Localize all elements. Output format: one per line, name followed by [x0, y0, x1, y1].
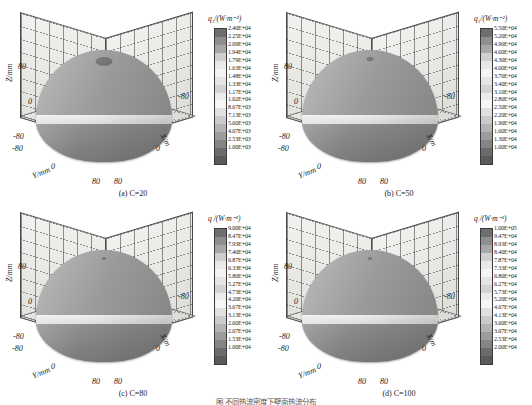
colorbar-swatch [215, 308, 226, 316]
x-tick-80: 80 [380, 377, 388, 386]
colorbar-tick-label: 7.13E+03 [228, 112, 268, 120]
y-tick-0: 0 [317, 162, 321, 171]
colorbar-swatch [481, 61, 492, 69]
x-tick-0: 0 [156, 144, 160, 153]
panel-a: Z/mm 80 0 -80 -80 0 80 Y/mm -80 0 80 X/m… [0, 0, 266, 202]
z-tick-neg80: -80 [279, 132, 290, 141]
colorbar-swatch [481, 77, 492, 85]
colorbar-swatch [481, 324, 492, 332]
colorbar-swatch [215, 116, 226, 124]
colorbar-swatch [481, 269, 492, 277]
colorbar-tick-label: 2.00E+04 [494, 344, 532, 352]
colorbar-swatch [215, 124, 226, 132]
dome-skirt [302, 320, 438, 362]
y-tick-neg80: -80 [12, 344, 23, 353]
colorbar-swatch [215, 140, 226, 148]
colorbar-swatch [481, 69, 492, 77]
y-tick-neg80: -80 [12, 144, 23, 153]
colorbar-swatch [481, 285, 492, 293]
colorbar-swatch [481, 148, 492, 156]
dome-skirt [36, 320, 172, 362]
axes-3d-c [6, 204, 202, 380]
colorbar-swatch [481, 316, 492, 324]
colorbar-swatch [215, 108, 226, 116]
colorbar-tick-label: 1.90E+04 [494, 120, 532, 128]
colorbar-swatch [215, 69, 226, 77]
colorbar-swatch [481, 37, 492, 45]
colorbar-tick-labels: 2.40E+042.25E+042.09E+041.94E+041.79E+04… [228, 25, 268, 165]
colorbar-swatch [481, 293, 492, 301]
colorbar-swatch [481, 348, 492, 356]
colorbar-tick-label: 9.00E+04 [228, 225, 268, 233]
colorbar-swatch [215, 245, 226, 253]
colorbar-tick-label: 4.13E+04 [494, 312, 532, 320]
x-tick-80: 80 [114, 377, 122, 386]
colorbar-tick-label: 7.40E+04 [228, 249, 268, 257]
colorbar-swatch [215, 53, 226, 61]
z-axis-label: Z/mm [5, 64, 14, 82]
x-tick-0: 0 [422, 344, 426, 353]
y-tick-0: 0 [317, 362, 321, 371]
colorbar-tick-label: 2.09E+04 [228, 41, 268, 49]
colorbar-swatch [481, 261, 492, 269]
y-tick-80: 80 [358, 177, 366, 186]
colorbar-swatches [214, 28, 227, 165]
dome-skirt [36, 120, 172, 162]
colorbar-tick-label: 4.60E+04 [494, 49, 532, 57]
colorbar-tick-labels: 1.00E+059.47E+048.93E+048.40E+047.87E+04… [494, 225, 532, 365]
colorbar-swatch [481, 140, 492, 148]
y-tick-80: 80 [358, 377, 366, 386]
colorbar-tick-label: 4.00E+04 [494, 65, 532, 73]
colorbar-tick-label: 2.07E+04 [228, 328, 268, 336]
colorbar-swatch [215, 77, 226, 85]
dome-highlight-band [36, 315, 172, 324]
colorbar-tick-label: 6.33E+04 [228, 265, 268, 273]
colorbar-tick-label: 2.40E+04 [228, 25, 268, 33]
colorbar-tick-label: 7.87E+04 [494, 257, 532, 265]
y-tick-neg80: -80 [278, 144, 289, 153]
axes-3d-b [272, 4, 468, 180]
colorbar-swatch [481, 300, 492, 308]
colorbar-swatches [480, 28, 493, 165]
colorbar-tick-label: 4.90E+04 [494, 41, 532, 49]
colorbar-tick-label: 2.25E+04 [228, 33, 268, 41]
colorbar-swatch [215, 237, 226, 245]
colorbar-tick-label: 1.60E+04 [494, 128, 532, 136]
colorbar-swatch [481, 340, 492, 348]
y-tick-80: 80 [92, 177, 100, 186]
colorbar-tick-label: 6.27E+04 [494, 281, 532, 289]
colorbar-swatch [481, 245, 492, 253]
colorbar-tick-label: 2.53E+04 [494, 336, 532, 344]
colorbar-tick-label: 5.50E+04 [494, 25, 532, 33]
colorbar-swatch [215, 348, 226, 356]
colorbar-a: q₁/(W·m⁻²) 2.40E+042.25E+042.09E+041.94E… [206, 14, 264, 172]
colorbar-swatch [215, 356, 226, 364]
colorbar-tick-label: 1.53E+04 [228, 336, 268, 344]
colorbar-swatch [481, 132, 492, 140]
colorbar-tick-label: 1.79E+04 [228, 57, 268, 65]
colorbar-tick-label: 2.80E+04 [494, 96, 532, 104]
x-tick-80: 80 [114, 177, 122, 186]
colorbar-swatch [215, 340, 226, 348]
colorbar-tick-label: 1.30E+04 [494, 136, 532, 144]
panel-b: Z/mm 80 0 -80 -80 0 80 Y/mm -80 0 80 X/m… [266, 0, 532, 202]
colorbar-tick-label: 4.20E+04 [228, 296, 268, 304]
colorbar-swatch [215, 277, 226, 285]
dome-apex-spot [367, 57, 374, 61]
colorbar-swatch [481, 277, 492, 285]
colorbar-swatch [481, 253, 492, 261]
y-tick-0: 0 [51, 362, 55, 371]
z-tick-0: 0 [294, 297, 298, 306]
colorbar-title: q /(W·m⁻²) [474, 214, 507, 223]
colorbar-swatch [215, 29, 226, 37]
z-tick-0: 0 [28, 297, 32, 306]
plot-c: Z/mm 80 0 -80 -80 0 80 Y/mm -80 0 80 X/m [6, 204, 202, 380]
dome-apex-spot [102, 257, 106, 260]
colorbar-tick-label: 1.17E+04 [228, 89, 268, 97]
x-tick-neg80: -80 [444, 92, 455, 101]
colorbar-swatch [481, 156, 492, 164]
colorbar-swatch [481, 229, 492, 237]
colorbar-tick-label: 7.33E+04 [494, 265, 532, 273]
colorbar-swatch [481, 85, 492, 93]
